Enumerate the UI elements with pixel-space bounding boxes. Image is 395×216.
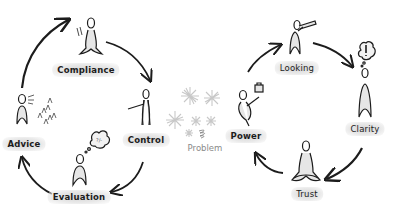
node-clarity-label: Clarity bbox=[345, 122, 384, 136]
advice-figure-icon bbox=[17, 95, 34, 125]
diagram-canvas: ?/- bbox=[0, 0, 395, 216]
problem-stars-icon bbox=[166, 87, 220, 138]
node-looking-label: Looking bbox=[275, 61, 319, 75]
looking-figure-icon bbox=[290, 21, 316, 55]
node-power-label: Power bbox=[226, 129, 267, 143]
arrow-advice-to-compliance bbox=[22, 20, 68, 88]
power-figure-icon bbox=[239, 83, 263, 126]
node-control-label: Control bbox=[123, 133, 170, 147]
crowd-icon bbox=[38, 98, 56, 124]
compliance-figure-icon bbox=[77, 18, 102, 54]
clarity-figure-icon bbox=[358, 42, 375, 117]
svg-text:?/-: ?/- bbox=[96, 137, 102, 143]
evaluation-figure-icon: ?/- bbox=[73, 131, 109, 185]
node-trust-label: Trust bbox=[291, 187, 323, 201]
control-figure-icon bbox=[128, 90, 150, 126]
node-evaluation-label: Evaluation bbox=[48, 190, 111, 204]
arrow-evaluation-to-advice bbox=[22, 158, 52, 194]
arrow-trust-to-power bbox=[256, 154, 283, 173]
arrow-control-to-evaluation bbox=[112, 162, 143, 192]
arrow-clarity-to-trust bbox=[327, 148, 362, 179]
node-advice-label: Advice bbox=[2, 137, 45, 151]
trust-figure-icon bbox=[292, 141, 320, 181]
problem-label: Problem bbox=[188, 143, 223, 153]
arrow-looking-to-clarity bbox=[313, 43, 352, 66]
node-compliance-label: Compliance bbox=[52, 63, 119, 77]
